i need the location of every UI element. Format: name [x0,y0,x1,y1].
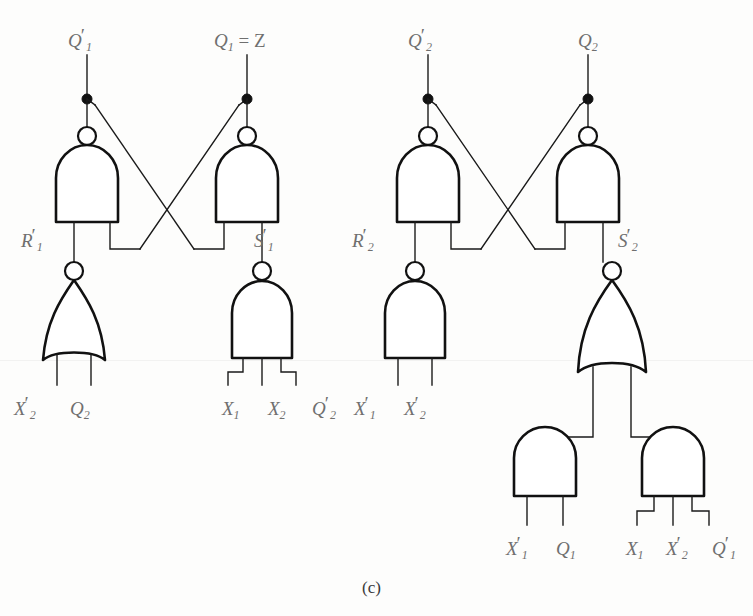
wire-and-right-input-3 [692,496,709,525]
label-q1-equals-z: Q1 = Z [214,30,266,52]
wire-nand-s1n-input-1 [228,358,243,385]
input-label-x1-prime-and1: X′1 [506,538,528,560]
bubble-nand-q1n [78,127,96,145]
label-r2-prime: R′2 [352,230,374,252]
gate-nand-q1 [216,145,278,222]
input-label-x1-and2: X1 [626,538,644,560]
bubble-nor-s2n [603,262,621,280]
input-label-q1-prime-and2: Q′1 [712,538,736,560]
input-label-x1-s1: X1 [222,398,240,420]
input-label-q1-and1: Q1 [556,538,576,560]
input-label-x2-prime-and2: X′2 [666,538,688,560]
label-s1-prime: S′1 [254,230,274,252]
gate-nand-q1n [56,145,118,222]
wire-crosscouple-right-lower-2 [535,222,565,249]
bubble-nand-q2 [579,127,597,145]
label-r1-prime: R′1 [21,230,43,252]
wire-crosscouple-left-lower [110,222,140,249]
label-q2-prime: Q′2 [408,30,432,52]
input-label-q2-nor1: Q2 [70,398,90,420]
input-label-x2-prime-nor1: X′2 [14,398,36,420]
gate-nand-q2 [557,145,619,222]
gate-nand-s1n [232,281,292,358]
label-q1-prime: Q′1 [68,30,92,52]
gate-and-right [642,427,704,496]
wire-nand-s1n-input-3 [281,358,296,385]
gate-nor-s2n [578,280,646,372]
bubble-nand-q1 [238,127,256,145]
input-label-x2-s1: X2 [268,398,286,420]
gate-nand-q2n [397,145,459,222]
gate-nand-r2n [385,281,445,358]
bubble-nand-r2n [406,262,424,280]
wire-crosscouple-right-lower [194,222,224,249]
bubble-nor-r1n [65,262,83,280]
input-label-q2-prime-s1: Q′2 [312,398,336,420]
circuit-svg [0,0,753,616]
logic-diagram: Q′1 Q1 = Z Q′2 Q2 R′1 S′1 R′2 S′2 X′2 Q2… [0,0,753,616]
bubble-nand-s1n [253,262,271,280]
label-s2-prime: S′2 [618,230,638,252]
wire-and-right-input-1 [637,496,654,525]
bubble-nand-q2n [419,127,437,145]
input-label-x1-prime-r2: X′1 [354,398,376,420]
input-label-x2-prime-r2: X′2 [404,398,426,420]
wire-crosscouple-left-lower-2 [451,222,481,249]
gate-nor-r1n [43,280,105,360]
figure-caption: (c) [362,578,381,598]
gate-and-left [514,427,576,496]
label-q2: Q2 [578,30,598,52]
